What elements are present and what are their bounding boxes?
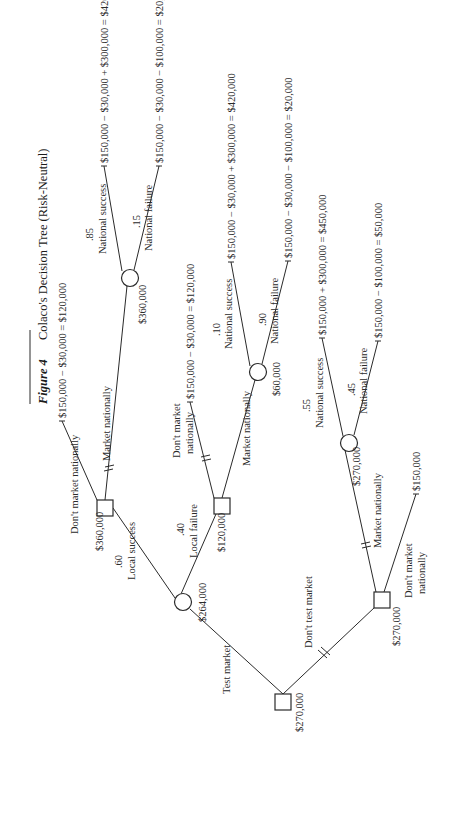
- prob-C-nat-failure: .45: [346, 383, 357, 396]
- payoff-B-dont: $150,000 − $30,000 = $120,000: [185, 264, 196, 399]
- prob-C-nat-success: .55: [301, 399, 312, 412]
- decision-node-B-value: $120,000: [216, 513, 227, 552]
- decision-node-C-value: $270,000: [391, 607, 402, 646]
- prob-B-nat-failure: .90: [257, 313, 268, 326]
- payoff-C-failure: $150,000 − $100,000 = $50,000: [373, 203, 384, 338]
- payoff-A-success: $150,000 − $30,000 + $300,000 = $420,000: [99, 0, 110, 163]
- label-A-nat-failure: National failure: [143, 184, 154, 251]
- local-chance-node: [175, 594, 192, 611]
- prob-local-success: .60: [113, 555, 124, 568]
- label-C-dont-market-1: Don't market: [403, 543, 414, 598]
- prob-local-failure: .40: [175, 523, 186, 536]
- branch-C-nat-success: [322, 338, 343, 436]
- label-B-market: Market nationally: [241, 390, 252, 466]
- prob-B-nat-success: .10: [211, 323, 222, 336]
- label-B-dont-market-2: nationally: [184, 411, 195, 454]
- decision-node-C: [374, 592, 390, 608]
- label-B-nat-success: National success: [223, 279, 234, 349]
- payoff-B-failure: $150,000 − $30,000 − $100,000 = $20,000: [283, 77, 294, 258]
- decision-node-B: [214, 498, 230, 514]
- branch-dont-test-market: [283, 607, 375, 694]
- label-A-dont-market: Don't market nationally: [69, 434, 80, 534]
- label-C-market: Market nationally: [372, 472, 383, 548]
- label-C-nat-failure: National failure: [358, 347, 369, 414]
- hash-mark: [104, 465, 114, 471]
- label-test-market: Test market: [221, 645, 232, 694]
- root-decision-node: [275, 694, 291, 710]
- figure-label: Figure 4: [36, 359, 50, 405]
- chance-node-C-value: $270,000: [351, 447, 362, 486]
- label-A-market: Market nationally: [101, 385, 112, 461]
- hash-mark: [201, 455, 211, 461]
- label-dont-test-market: Don't test market: [303, 576, 314, 648]
- hash-mark: [318, 647, 330, 658]
- local-chance-value: $264,000: [197, 583, 208, 622]
- payoff-A-failure: $150,000 − $30,000 − $100,000 = $20,000: [154, 0, 165, 163]
- label-B-dont-market-1: Don't market: [171, 403, 182, 458]
- label-C-nat-success: National success: [314, 358, 325, 428]
- chance-node-B: [250, 364, 267, 381]
- label-local-success: Local success: [126, 522, 137, 580]
- decision-node-A-value: $360,000: [94, 512, 105, 551]
- payoff-C-dont: $150,000: [411, 452, 422, 491]
- root-value: $270,000: [294, 693, 305, 732]
- label-B-nat-failure: National failure: [269, 277, 280, 344]
- payoff-A-dont: $150,000 − $30,000 = $120,000: [57, 283, 68, 418]
- label-local-failure: Local failure: [188, 504, 199, 558]
- prob-A-nat-failure: .15: [131, 215, 142, 228]
- label-C-dont-market-2: nationally: [416, 551, 427, 594]
- chance-node-A-value: $360,000: [137, 285, 148, 324]
- decision-tree-diagram: Figure 4 Colaco's Decision Tree (Risk-Ne…: [0, 0, 456, 816]
- payoff-C-success: $150,000 + $300,000 = $450,000: [317, 195, 328, 335]
- prob-A-nat-success: .85: [84, 228, 95, 241]
- branch-local-success: [113, 508, 175, 598]
- chance-node-A: [122, 270, 139, 287]
- chance-node-B-value: $60,000: [271, 362, 282, 396]
- payoff-B-success: $150,000 − $30,000 + $300,000 = $420,000: [226, 73, 237, 259]
- label-A-nat-success: National success: [97, 184, 108, 254]
- figure-title: Colaco's Decision Tree (Risk-Neutral): [36, 149, 50, 340]
